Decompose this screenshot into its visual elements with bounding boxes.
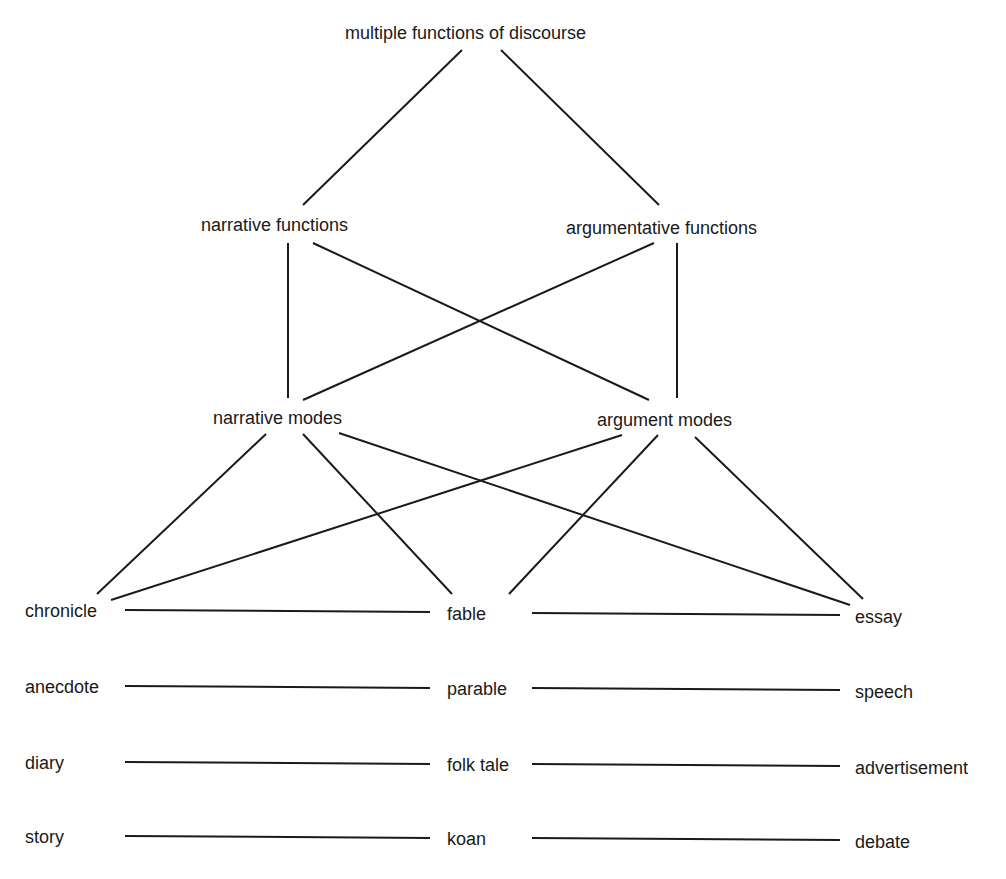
- edge-argument-modes-essay: [695, 437, 863, 599]
- edge-diary-folk-tale: [125, 762, 430, 764]
- node-root: multiple functions of discourse: [345, 22, 586, 44]
- edge-folk-tale-advertisement: [532, 764, 840, 766]
- diagram-edges: [0, 0, 1006, 879]
- node-narrative-modes: narrative modes: [213, 407, 342, 429]
- edge-root-argumentative-functions: [501, 50, 659, 205]
- edge-narrative-functions-argument-modes: [313, 243, 649, 400]
- edge-chronicle-fable: [125, 610, 430, 612]
- node-fable: fable: [447, 603, 486, 625]
- edge-fable-essay: [532, 613, 840, 615]
- edge-argument-modes-fable: [509, 435, 658, 594]
- node-diary: diary: [25, 752, 64, 774]
- edge-root-narrative-functions: [303, 50, 462, 205]
- edge-anecdote-parable: [125, 686, 430, 688]
- edge-argumentative-functions-narrative-modes: [303, 243, 654, 400]
- node-narrative-functions: narrative functions: [201, 214, 348, 236]
- node-speech: speech: [855, 681, 913, 703]
- node-essay: essay: [855, 606, 902, 628]
- node-parable: parable: [447, 678, 507, 700]
- node-anecdote: anecdote: [25, 676, 99, 698]
- edge-argument-modes-chronicle: [111, 435, 622, 600]
- node-advertisement: advertisement: [855, 757, 968, 779]
- node-koan: koan: [447, 828, 486, 850]
- edge-story-koan: [125, 836, 430, 838]
- edge-narrative-modes-essay: [339, 433, 850, 605]
- edge-narrative-modes-chronicle: [97, 434, 266, 594]
- edge-koan-debate: [532, 838, 840, 840]
- node-chronicle: chronicle: [25, 600, 97, 622]
- node-debate: debate: [855, 831, 910, 853]
- node-argument-modes: argument modes: [597, 409, 732, 431]
- node-story: story: [25, 826, 64, 848]
- node-argumentative-functions: argumentative functions: [566, 217, 757, 239]
- edge-parable-speech: [532, 688, 840, 690]
- node-folk-tale: folk tale: [447, 754, 509, 776]
